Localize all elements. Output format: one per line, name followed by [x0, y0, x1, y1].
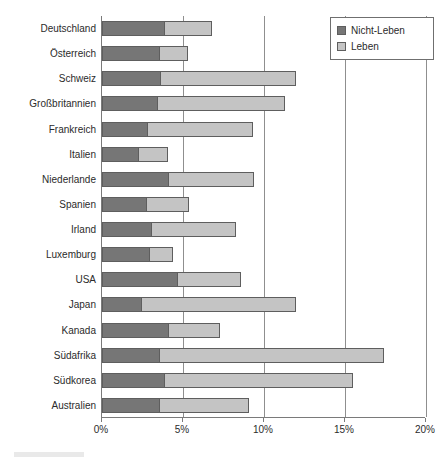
bar-stack — [102, 197, 189, 212]
bar-segment-leben — [159, 46, 188, 61]
legend-item-nicht-leben: Nicht-Leben — [337, 23, 427, 37]
bar-stack — [102, 122, 253, 137]
legend-label-nicht-leben: Nicht-Leben — [351, 25, 405, 36]
bar-segment-leben — [164, 373, 354, 388]
bar-stack — [102, 96, 285, 111]
y-axis-label: Deutschland — [0, 23, 96, 34]
bar-segment-leben — [146, 197, 190, 212]
bar-row — [102, 348, 425, 363]
bar-stack — [102, 222, 236, 237]
bar-segment-nicht-leben — [102, 272, 177, 287]
bar-row — [102, 197, 425, 212]
bar-row — [102, 247, 425, 262]
bar-row — [102, 272, 425, 287]
y-axis-label: Südafrika — [0, 350, 96, 361]
bar-row — [102, 172, 425, 187]
bar-segment-nicht-leben — [102, 297, 141, 312]
scan-artifact — [14, 452, 84, 457]
bar-segment-nicht-leben — [102, 147, 138, 162]
y-axis-label: Spanien — [0, 199, 96, 210]
bar-segment-leben — [157, 96, 285, 111]
bar-stack — [102, 348, 384, 363]
series-swatch-leben-icon — [337, 42, 346, 51]
y-axis-label: Australien — [0, 400, 96, 411]
legend-label-leben: Leben — [351, 41, 379, 52]
x-axis-tick-label: 20% — [415, 424, 435, 436]
bar-segment-leben — [177, 272, 242, 287]
bar-segment-nicht-leben — [102, 96, 157, 111]
bar-segment-nicht-leben — [102, 348, 159, 363]
x-axis-tick-labels: 0%5%10%15%20% — [0, 424, 448, 440]
bar-stack — [102, 297, 296, 312]
legend-item-leben: Leben — [337, 39, 427, 53]
bar-segment-nicht-leben — [102, 122, 147, 137]
bar-segment-nicht-leben — [102, 323, 168, 338]
bar-row — [102, 323, 425, 338]
bar-row — [102, 297, 425, 312]
x-axis-tick-label: 0% — [94, 424, 108, 436]
bar-row — [102, 71, 425, 86]
bar-row — [102, 398, 425, 413]
bar-segment-leben — [138, 147, 169, 162]
y-axis-label: Österreich — [0, 48, 96, 59]
bar-stack — [102, 172, 254, 187]
bar-segment-nicht-leben — [102, 21, 164, 36]
bar-segment-nicht-leben — [102, 172, 168, 187]
x-axis-tick-label: 5% — [175, 424, 189, 436]
y-axis-label: Italien — [0, 149, 96, 160]
x-axis-tick — [263, 418, 264, 422]
x-axis-tick-label: 15% — [334, 424, 354, 436]
y-axis-label: USA — [0, 274, 96, 285]
bar-segment-nicht-leben — [102, 373, 164, 388]
bar-segment-nicht-leben — [102, 247, 149, 262]
bar-segment-leben — [159, 398, 250, 413]
chart-legend: Nicht-Leben Leben — [330, 17, 434, 60]
bar-segment-nicht-leben — [102, 398, 159, 413]
bar-segment-leben — [168, 323, 220, 338]
bar-row — [102, 147, 425, 162]
bar-segment-nicht-leben — [102, 46, 159, 61]
bar-segment-leben — [147, 122, 252, 137]
bar-segment-leben — [141, 297, 297, 312]
bar-segment-nicht-leben — [102, 222, 151, 237]
bar-row — [102, 222, 425, 237]
bar-segment-leben — [159, 348, 384, 363]
y-axis-label: Schweiz — [0, 73, 96, 84]
bar-segment-nicht-leben — [102, 71, 160, 86]
bar-row — [102, 373, 425, 388]
bar-rows — [102, 16, 425, 417]
gridline — [426, 16, 427, 417]
y-axis-label: Niederlande — [0, 174, 96, 185]
bar-stack — [102, 71, 296, 86]
y-axis-label: Großbritannien — [0, 98, 96, 109]
y-axis-label: Japan — [0, 299, 96, 310]
x-axis-tick-label: 10% — [253, 424, 273, 436]
bar-segment-leben — [160, 71, 296, 86]
y-axis-label: Irland — [0, 224, 96, 235]
bar-segment-leben — [168, 172, 254, 187]
bar-stack — [102, 323, 220, 338]
stacked-bar-chart: DeutschlandÖsterreichSchweizGroßbritanni… — [0, 0, 448, 466]
bar-stack — [102, 272, 241, 287]
x-axis-tick — [182, 418, 183, 422]
y-axis-label: Südkorea — [0, 375, 96, 386]
series-swatch-nicht-leben-icon — [337, 26, 346, 35]
y-axis-category-labels: DeutschlandÖsterreichSchweizGroßbritanni… — [0, 16, 96, 418]
bar-stack — [102, 398, 249, 413]
bar-stack — [102, 247, 173, 262]
bar-segment-leben — [149, 247, 173, 262]
bar-segment-nicht-leben — [102, 197, 146, 212]
bar-stack — [102, 21, 212, 36]
x-axis-tick — [425, 418, 426, 422]
bar-segment-leben — [164, 21, 213, 36]
bar-row — [102, 122, 425, 137]
x-axis-tick — [101, 418, 102, 422]
y-axis-label: Kanada — [0, 325, 96, 336]
bar-stack — [102, 373, 353, 388]
bar-stack — [102, 46, 188, 61]
y-axis-label: Frankreich — [0, 124, 96, 135]
plot-area — [101, 16, 425, 418]
bar-segment-leben — [151, 222, 237, 237]
y-axis-label: Luxemburg — [0, 249, 96, 260]
x-axis-tick — [344, 418, 345, 422]
